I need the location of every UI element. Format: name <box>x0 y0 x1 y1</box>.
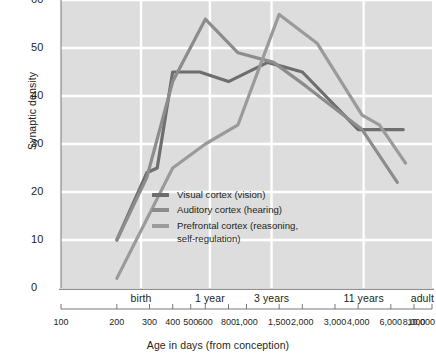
x-axis-category-label: 11 years <box>343 292 383 304</box>
x-axis-tick-label: 6,000 <box>380 317 403 327</box>
legend-item-label: Prefrontal cortex (reasoning, self-regul… <box>177 219 298 245</box>
y-axis-tick-label: 10 <box>31 233 43 245</box>
legend-color-swatch <box>152 224 169 228</box>
legend-color-swatch <box>152 193 169 197</box>
x-axis-tick-label: 2,000 <box>291 317 314 327</box>
x-axis-tick-label: 800 <box>221 317 236 327</box>
y-axis-tick-label: 30 <box>31 137 43 149</box>
x-axis-category-label: birth <box>131 292 152 304</box>
y-axis-tick-label: 60 <box>31 0 43 5</box>
x-axis-category-label: adult <box>411 292 434 304</box>
x-axis-tick-label: 1,000 <box>235 317 258 327</box>
y-axis-tick-label: 0 <box>31 281 37 293</box>
x-axis-tick-label: 400 <box>165 317 180 327</box>
synaptic-density-chart: Synaptic density 0102030405060 birth1 ye… <box>0 0 436 361</box>
legend-item: Prefrontal cortex (reasoning, self-regul… <box>152 219 298 245</box>
x-axis-tick-label: 100 <box>53 317 68 327</box>
chart-plot-area <box>0 0 436 361</box>
x-axis-tick-label: 300 <box>142 317 157 327</box>
x-axis-title: Age in days (from conception) <box>0 339 436 351</box>
x-axis-tick-label: 4,000 <box>347 317 370 327</box>
y-axis-tick-label: 20 <box>31 185 43 197</box>
x-axis-category-label: 1 year <box>195 292 225 304</box>
x-axis-category-label: 3 years <box>254 292 289 304</box>
legend-item-label: Visual cortex (vision) <box>177 188 265 201</box>
chart-legend: Visual cortex (vision)Auditory cortex (h… <box>152 188 298 247</box>
x-axis-tick-label: 10,000 <box>407 317 435 327</box>
legend-item-label: Auditory cortex (hearing) <box>177 203 282 216</box>
x-axis-tick-label: 200 <box>109 317 124 327</box>
x-axis-tick-label: 1,500 <box>268 317 291 327</box>
x-axis-tick-label: 500 <box>183 317 198 327</box>
y-axis-tick-label: 50 <box>31 41 43 53</box>
x-axis-tick-label: 600 <box>198 317 213 327</box>
x-axis-tick-label: 3,000 <box>324 317 347 327</box>
legend-item: Auditory cortex (hearing) <box>152 203 298 216</box>
y-axis-title: Synaptic density <box>26 31 38 191</box>
legend-color-swatch <box>152 208 169 212</box>
legend-item: Visual cortex (vision) <box>152 188 298 201</box>
y-axis-tick-label: 40 <box>31 89 43 101</box>
